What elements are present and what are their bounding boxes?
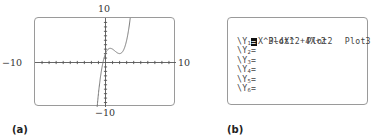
caption-b: (b) [227, 124, 243, 135]
y-editor-screen: Plot1Plot2Plot3 \Y1=X^3−4X^2+4X+2 \Y2= \… [227, 17, 368, 105]
y4-row[interactable]: \Y4= [237, 65, 371, 75]
y-min-label: −10 [95, 108, 115, 118]
y-prefix: \Y [237, 74, 247, 84]
y-prefix: \Y [237, 83, 247, 93]
y-prefix: \Y [237, 55, 247, 65]
function-graph [35, 18, 176, 107]
x-max-label: 10 [178, 58, 190, 68]
equals-sign: = [251, 83, 256, 93]
equals-sign: = [251, 64, 256, 74]
y-max-label: 10 [98, 4, 110, 14]
equals-sign: = [251, 74, 256, 84]
y6-row[interactable]: \Y6= [237, 84, 371, 94]
y-prefix: \Y [237, 45, 247, 55]
equals-sign: = [251, 55, 256, 65]
y-prefix: \Y [237, 64, 247, 74]
equals-sign: = [251, 45, 256, 55]
x-min-label: −10 [2, 58, 22, 68]
y1-prefix: \Y [237, 36, 247, 46]
y1-expression[interactable]: X^3−4X^2+4X+2 [258, 36, 326, 46]
y3-row[interactable]: \Y3= [237, 56, 371, 66]
graph-screen [34, 17, 175, 106]
caption-a: (a) [12, 124, 28, 135]
plot3-toggle[interactable]: Plot3 [345, 36, 371, 46]
y5-row[interactable]: \Y5= [237, 75, 371, 85]
